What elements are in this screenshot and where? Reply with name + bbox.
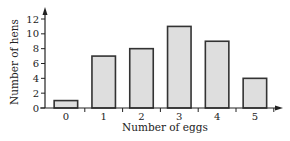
y-axis-arrow-icon — [43, 7, 48, 15]
y-axis-label: Number of hens — [8, 19, 20, 105]
y-tick-label: 12 — [26, 14, 39, 25]
bar-chart: 024681012 012345 Number of hens Number o… — [0, 0, 290, 141]
bar — [130, 49, 154, 108]
y-axis-ticks: 024681012 — [26, 14, 45, 114]
bars — [54, 26, 267, 108]
y-tick-label: 2 — [33, 88, 39, 99]
bar — [243, 78, 267, 108]
bar — [54, 101, 78, 108]
y-tick-label: 6 — [33, 58, 39, 69]
y-tick-label: 0 — [33, 103, 39, 114]
x-axis-arrow-icon — [275, 106, 283, 111]
y-tick-label: 10 — [26, 28, 39, 39]
x-axis-ticks: 012345 — [63, 108, 274, 122]
x-axis-label: Number of eggs — [122, 121, 208, 133]
y-tick-label: 4 — [33, 73, 39, 84]
x-tick-label: 4 — [214, 111, 220, 122]
y-tick-label: 8 — [33, 43, 39, 54]
x-tick-label: 0 — [63, 111, 69, 122]
x-tick-label: 5 — [252, 111, 258, 122]
bar — [205, 41, 229, 108]
bar — [168, 26, 192, 108]
bar — [92, 56, 116, 108]
x-tick-label: 1 — [101, 111, 107, 122]
